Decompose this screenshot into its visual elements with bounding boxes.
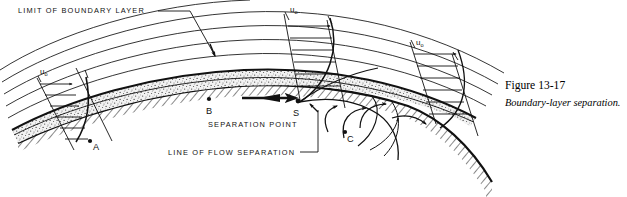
label-point-s: S xyxy=(293,108,300,118)
figure-caption: Figure 13-17 Boundary-layer separation. xyxy=(505,78,627,110)
label-separation-point: SEPARATION POINT xyxy=(208,120,298,129)
label-point-a: A xyxy=(93,142,100,152)
caption-text: Boundary-layer separation. xyxy=(505,95,627,110)
point-marker-b xyxy=(207,97,211,101)
label-point-c: C xyxy=(347,134,354,144)
figure-boundary-layer-separation: LIMIT OF BOUNDARY LAYER LINE OF FLOW SEP… xyxy=(0,0,627,197)
label-limit-of-boundary-layer: LIMIT OF BOUNDARY LAYER xyxy=(18,6,145,15)
point-marker-s xyxy=(296,99,301,104)
caption-number: Figure 13-17 xyxy=(505,78,627,95)
point-marker-a xyxy=(88,139,92,143)
label-point-b: B xyxy=(206,106,213,116)
label-line-of-flow-separation: LINE OF FLOW SEPARATION xyxy=(168,148,295,157)
